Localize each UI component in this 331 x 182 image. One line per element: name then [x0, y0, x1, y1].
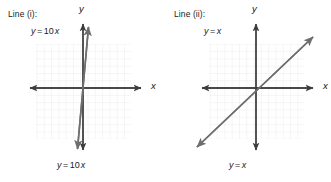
x-axis-label-line-i: x	[151, 80, 156, 91]
equation-operator: =	[234, 160, 242, 170]
equation-operator: =	[36, 26, 44, 36]
x-axis-label-line-ii: x	[323, 80, 328, 91]
equation-operator: =	[62, 160, 70, 170]
two-line-graphs-figure: Line (i): y=10x y=10x y x	[0, 0, 331, 182]
equation-coefficient: 10	[44, 26, 54, 36]
equation-variable: x	[217, 26, 222, 36]
equation-label-bottom-line-i: y=10x	[57, 160, 85, 170]
equation-lhs: y	[229, 160, 234, 170]
graph-canvas-line-ii	[166, 0, 331, 182]
equation-operator: =	[209, 26, 217, 36]
equation-label-top-line-i: y=10x	[31, 26, 59, 36]
equation-variable: x	[81, 160, 86, 170]
equation-lhs: y	[57, 160, 62, 170]
graph-canvas-line-i	[0, 0, 165, 182]
equation-variable: x	[242, 160, 247, 170]
equation-label-bottom-line-ii: y=x	[229, 160, 246, 170]
equation-lhs: y	[31, 26, 36, 36]
y-axis-label-line-ii: y	[252, 3, 257, 14]
y-axis-label-line-i: y	[79, 3, 84, 14]
equation-label-top-line-ii: y=x	[204, 26, 221, 36]
panel-line-i: Line (i): y=10x y=10x y x	[0, 0, 165, 182]
equation-lhs: y	[204, 26, 209, 36]
equation-coefficient: 10	[70, 160, 80, 170]
panel-title-line-ii: Line (ii):	[174, 9, 205, 19]
equation-variable: x	[55, 26, 60, 36]
panel-line-ii: Line (ii): y=x y=x y x	[166, 0, 331, 182]
panel-title-line-i: Line (i):	[8, 9, 37, 19]
